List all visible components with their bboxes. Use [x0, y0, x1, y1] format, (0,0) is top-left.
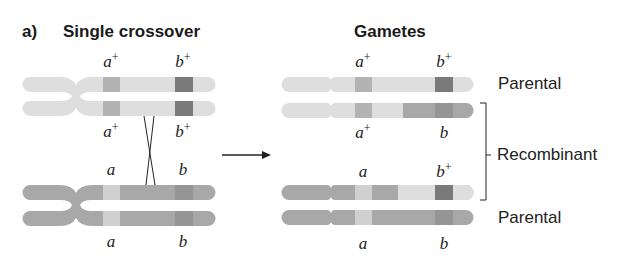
gamete-label-a: a — [348, 232, 378, 254]
gamete-label-a: a+ — [348, 121, 378, 143]
parental-label-top: Parental — [498, 74, 561, 94]
gamete-label-b: b+ — [429, 160, 459, 182]
gamete-label-b: b+ — [429, 50, 459, 72]
recombinant-label: Recombinant — [497, 145, 597, 165]
gamete-label-a: a+ — [348, 50, 378, 72]
gamete-chromosome-parental-light — [280, 77, 480, 92]
gamete-chromosome-parental-dark — [280, 210, 480, 225]
gamete-label-b: b — [429, 232, 459, 254]
gamete-chromosomes — [0, 0, 636, 269]
gamete-chromosome-recombinant-2 — [280, 185, 483, 200]
gamete-label-a: a — [348, 160, 378, 182]
gamete-chromosome-recombinant-1 — [280, 103, 483, 118]
parental-label-bottom: Parental — [498, 208, 561, 228]
recombinant-bracket — [480, 103, 491, 200]
gamete-label-b: b — [429, 121, 459, 143]
